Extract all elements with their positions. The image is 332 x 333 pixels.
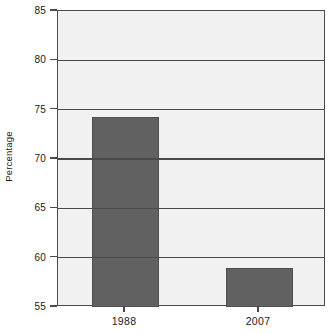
x-tick-mark xyxy=(123,306,125,312)
plot-area xyxy=(57,10,325,306)
gridline-overlay xyxy=(58,158,324,160)
bar-chart: Percentage 55606570758085 19882007 xyxy=(0,0,332,333)
x-tick-label-1988: 1988 xyxy=(112,315,137,327)
y-tick-label: 60 xyxy=(18,251,46,262)
x-tick-mark xyxy=(257,306,259,312)
y-tick-mark xyxy=(50,9,57,11)
bar-2007 xyxy=(226,268,293,307)
gridline-overlay xyxy=(58,257,324,259)
y-tick-mark xyxy=(50,207,57,209)
gridline-overlay xyxy=(58,208,324,210)
y-tick-mark xyxy=(50,157,57,159)
y-tick-label: 65 xyxy=(18,202,46,213)
y-tick-label: 75 xyxy=(18,103,46,114)
y-tick-mark xyxy=(50,59,57,61)
y-tick-mark xyxy=(50,256,57,258)
y-tick-label: 80 xyxy=(18,54,46,65)
y-tick-label: 70 xyxy=(18,153,46,164)
plot-inner xyxy=(58,11,324,305)
y-tick-label: 55 xyxy=(18,301,46,312)
y-tick-mark xyxy=(50,108,57,110)
gridline-overlay xyxy=(58,60,324,62)
y-tick-mark xyxy=(50,305,57,307)
bar-1988 xyxy=(92,117,159,307)
x-tick-label-2007: 2007 xyxy=(246,315,271,327)
y-axis-title: Percentage xyxy=(0,110,16,202)
y-axis-title-text: Percentage xyxy=(3,131,14,182)
gridline-overlay xyxy=(58,109,324,111)
y-tick-label: 85 xyxy=(18,5,46,16)
